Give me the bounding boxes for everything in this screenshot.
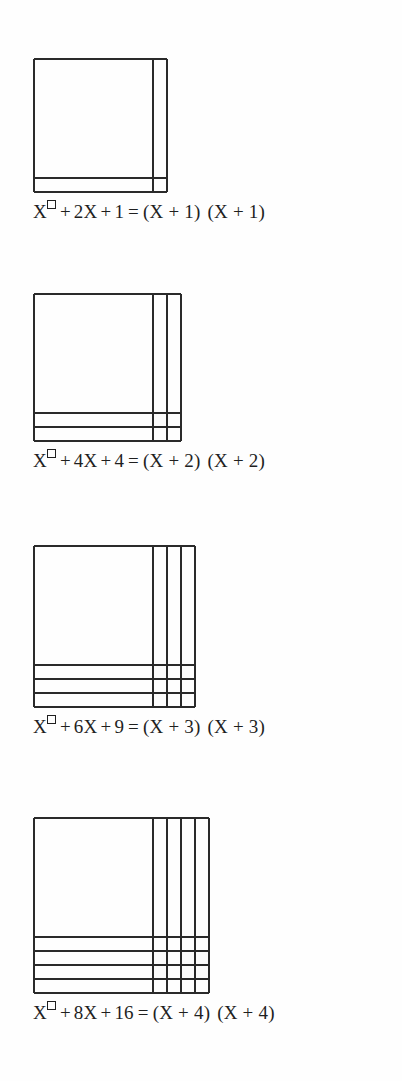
diagram-4 [33,817,402,994]
caption-3-equals: = [124,716,143,737]
figure-block-1: X+2X+1=(X + 1)(X + 1) [0,58,402,221]
caption-1: X+2X+1=(X + 1)(X + 1) [33,202,402,221]
caption-4-plus-2: + [97,1002,114,1023]
square-diagram-n4 [33,817,402,994]
caption-4-plus-1: + [57,1002,74,1023]
caption-3: X+6X+9=(X + 3)(X + 3) [33,717,402,736]
caption-2: X+4X+4=(X + 2)(X + 2) [33,451,402,470]
caption-3-constant: 9 [114,716,124,737]
caption-1-equals: = [124,201,143,222]
caption-1-factor-1: (X + 1) [143,201,201,222]
exponent-square-icon [47,449,56,460]
caption-2-constant: 4 [114,450,124,471]
square-diagram-n1 [33,58,402,193]
figure-block-3: X+6X+9=(X + 3)(X + 3) [0,545,402,736]
exponent-square-icon [47,715,56,726]
figure-block-2: X+4X+4=(X + 2)(X + 2) [0,293,402,470]
caption-2-factor-2: (X + 2) [208,450,266,471]
caption-3-plus-1: + [57,716,74,737]
exponent-square-icon [47,200,56,211]
caption-4-factor-2: (X + 4) [217,1002,275,1023]
caption-4-equals: = [134,1002,153,1023]
figure-block-4: X+8X+16=(X + 4)(X + 4) [0,817,402,1022]
caption-3-base: X [33,716,47,737]
square-diagram-n3 [33,545,402,708]
caption-4-base: X [33,1002,47,1023]
caption-2-plus-1: + [57,450,74,471]
caption-3-factor-2: (X + 3) [208,716,266,737]
diagram-3 [33,545,402,708]
caption-3-linear: 6X [74,716,98,737]
square-diagram-n2 [33,293,402,442]
caption-4-linear: 8X [74,1002,98,1023]
caption-2-base: X [33,450,47,471]
caption-3-plus-2: + [97,716,114,737]
caption-4-constant: 16 [114,1002,133,1023]
page-canvas: X+2X+1=(X + 1)(X + 1) X+4X+4=(X + 2)(X +… [0,0,402,1081]
caption-4: X+8X+16=(X + 4)(X + 4) [33,1003,402,1022]
diagram-2 [33,293,402,442]
caption-1-constant: 1 [114,201,124,222]
caption-4-factor-1: (X + 4) [153,1002,211,1023]
caption-1-base: X [33,201,47,222]
caption-2-linear: 4X [74,450,98,471]
caption-1-linear: 2X [74,201,98,222]
caption-1-plus-1: + [57,201,74,222]
caption-1-factor-2: (X + 1) [208,201,266,222]
caption-2-plus-2: + [97,450,114,471]
caption-2-factor-1: (X + 2) [143,450,201,471]
caption-2-equals: = [124,450,143,471]
caption-3-factor-1: (X + 3) [143,716,201,737]
diagram-1 [33,58,402,193]
exponent-square-icon [47,1001,56,1012]
caption-1-plus-2: + [97,201,114,222]
